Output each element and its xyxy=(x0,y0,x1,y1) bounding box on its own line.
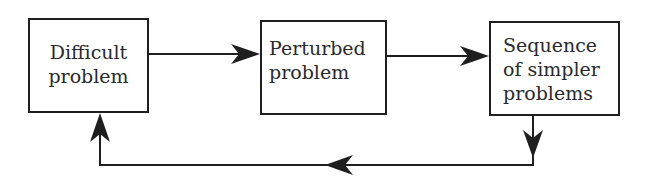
node-sequence-of-simpler-problems: Sequence of simpler problems xyxy=(489,21,620,116)
node-difficult-problem: Difficult problem xyxy=(28,18,149,113)
arrow-feedback-loop xyxy=(90,113,543,175)
node-label-line: of simpler xyxy=(503,57,600,81)
node-label-line: problem xyxy=(269,60,349,84)
node-label-line: Difficult xyxy=(50,40,127,64)
node-label-line: problems xyxy=(503,81,593,105)
node-label-line: problem xyxy=(48,64,128,88)
node-label-line: Perturbed xyxy=(269,36,366,60)
arrow-perturbed-to-sequence xyxy=(387,46,489,66)
node-perturbed-problem: Perturbed problem xyxy=(260,20,387,115)
node-label-line: Sequence xyxy=(503,33,597,57)
arrow-difficult-to-perturbed xyxy=(149,44,260,64)
flow-diagram: Difficult problem Perturbed problem Sequ… xyxy=(0,0,646,183)
